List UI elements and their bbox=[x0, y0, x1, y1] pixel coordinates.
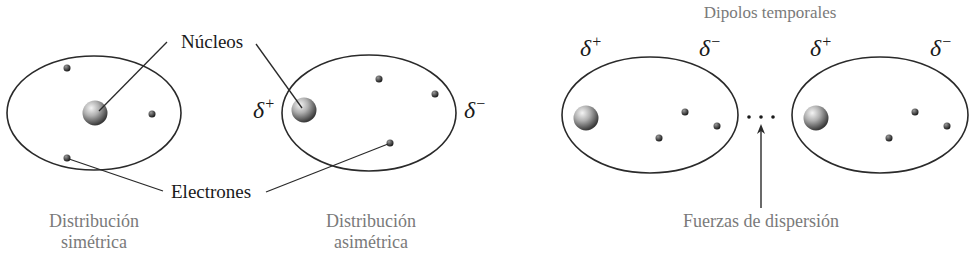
delta-symbol: δ bbox=[580, 35, 591, 61]
partial-positive-charge: δ+ bbox=[253, 96, 274, 122]
delta-symbol: δ bbox=[810, 35, 821, 61]
charge-sign: + bbox=[265, 95, 274, 112]
electrons-leader-right bbox=[266, 144, 388, 192]
charge-sign: − bbox=[942, 33, 951, 50]
temporary-dipoles-title: Dipolos temporales bbox=[680, 4, 860, 21]
ellipsis-dot bbox=[759, 115, 763, 119]
electron bbox=[387, 140, 394, 147]
electron bbox=[682, 109, 689, 116]
ellipsis-dot bbox=[771, 115, 775, 119]
nucleus-dipole-2 bbox=[804, 106, 829, 131]
charge-sign: + bbox=[592, 33, 601, 50]
electron bbox=[432, 91, 439, 98]
electron bbox=[149, 111, 156, 118]
electrons-leader-left bbox=[69, 159, 163, 191]
delta-symbol: δ bbox=[699, 35, 710, 61]
nucleus-asymmetric bbox=[292, 98, 317, 123]
delta-symbol: δ bbox=[930, 35, 941, 61]
temporary-dipole-1 bbox=[562, 57, 738, 173]
symmetric-caption: Distribución simétrica bbox=[38, 212, 150, 251]
dipole-2-positive: δ+ bbox=[810, 34, 831, 60]
partial-negative-charge: δ− bbox=[464, 96, 485, 122]
nuclei-label: Núcleos bbox=[181, 32, 243, 51]
electron bbox=[886, 135, 893, 142]
asymmetric-caption: Distribución asimétrica bbox=[315, 212, 427, 251]
dipole-2-negative: δ− bbox=[930, 34, 951, 60]
dipole-1-positive: δ+ bbox=[580, 34, 601, 60]
electron bbox=[64, 65, 71, 72]
electron bbox=[912, 109, 919, 116]
temporary-dipole-2 bbox=[792, 57, 968, 173]
electrons-label: Electrones bbox=[171, 182, 251, 201]
electron bbox=[656, 135, 663, 142]
caption-line: Distribución bbox=[38, 212, 150, 230]
asymmetric-atom bbox=[282, 55, 456, 171]
dipole-1-negative: δ− bbox=[699, 34, 720, 60]
dispersion-indicator bbox=[747, 115, 775, 208]
caption-line: simétrica bbox=[38, 233, 150, 251]
electron bbox=[376, 76, 383, 83]
nucleus-dipole-1 bbox=[574, 106, 599, 131]
electron bbox=[64, 155, 71, 162]
charge-sign: − bbox=[476, 95, 485, 112]
electron bbox=[714, 123, 721, 130]
charge-sign: − bbox=[711, 33, 720, 50]
delta-symbol: δ bbox=[253, 97, 264, 123]
leader-lines bbox=[69, 42, 388, 192]
ellipsis-dot bbox=[747, 115, 751, 119]
symmetric-atom bbox=[7, 56, 181, 170]
delta-symbol: δ bbox=[464, 97, 475, 123]
charge-sign: + bbox=[822, 33, 831, 50]
nucleus-symmetric bbox=[83, 101, 108, 126]
electron bbox=[944, 123, 951, 130]
caption-line: Distribución bbox=[315, 212, 427, 230]
caption-line: asimétrica bbox=[315, 233, 427, 251]
dispersion-forces-caption: Fuerzas de dispersión bbox=[668, 212, 854, 230]
nuclei-leader-left bbox=[99, 42, 167, 111]
